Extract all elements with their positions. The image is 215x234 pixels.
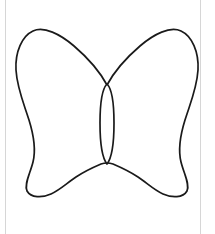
butterfly-body-path (100, 84, 114, 164)
butterfly-figure (0, 0, 215, 234)
butterfly-coloring-page (0, 0, 215, 234)
